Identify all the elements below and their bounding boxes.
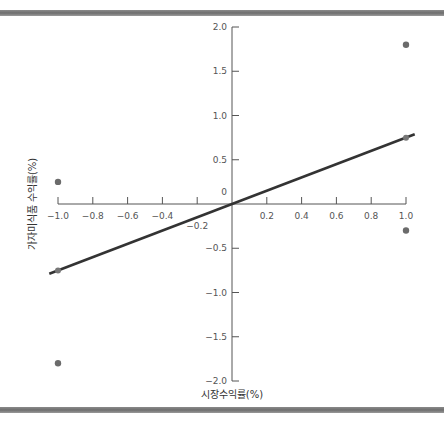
y-tick-label: −1.5 [205,332,227,342]
x-axis-label: 시장수익률(%) [201,389,263,400]
x-tick-label: −0.4 [151,211,173,221]
y-tick-label: 0 [221,187,227,197]
data-point [55,179,61,185]
x-tick-label: 0.6 [329,211,344,221]
x-tick-label: 1.0 [399,211,414,221]
x-tick-label: 0.4 [294,211,309,221]
x-tick-label: −0.2 [186,221,208,231]
scatter-chart: −1.0−0.8−0.6−0.4−0.20.20.40.60.81.02.01.… [0,0,444,424]
line-endpoint-marker [55,267,61,273]
x-tick-label: −1.0 [47,211,69,221]
x-tick-label: 0.2 [260,211,274,221]
x-tick-label: −0.8 [82,211,104,221]
y-tick-label: 1.0 [213,111,228,121]
line-endpoint-marker [403,135,409,141]
y-tick-label: −0.5 [205,243,227,253]
y-tick-label: −1.0 [205,288,227,298]
y-tick-label: 2.0 [213,22,228,32]
data-point [55,360,61,366]
y-axis-label: 가자미식품 수익률(%) [27,158,38,251]
data-point [403,227,409,233]
y-tick-label: 1.5 [213,66,227,76]
y-tick-label: 0.5 [213,155,227,165]
y-tick-label: −2.0 [205,376,227,386]
data-point [403,42,409,48]
x-tick-label: 0.8 [364,211,379,221]
x-tick-label: −0.6 [117,211,139,221]
